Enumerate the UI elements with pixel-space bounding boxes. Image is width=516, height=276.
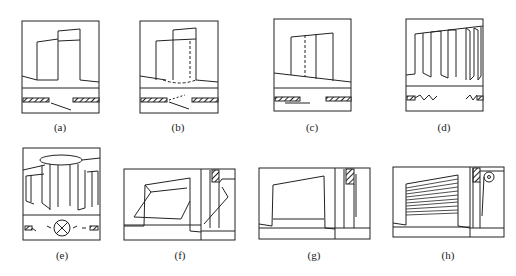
- panel-d-folding: [406, 19, 483, 111]
- caption-b: (b): [158, 121, 198, 133]
- caption-e: (e): [42, 249, 82, 261]
- panel-h-rolling-shutter: [393, 167, 504, 237]
- panel-a-single-swing: [22, 21, 99, 113]
- caption-c: (c): [292, 121, 332, 133]
- panel-f-up-and-over: [124, 169, 235, 240]
- caption-d: (d): [424, 121, 464, 133]
- panel-b-double-swing: [140, 21, 218, 113]
- panel-g-lifting: [259, 168, 370, 239]
- caption-a: (a): [40, 121, 80, 133]
- caption-h: (h): [428, 249, 468, 261]
- panel-c-sliding: [274, 19, 351, 111]
- caption-g: (g): [294, 249, 334, 261]
- caption-f: (f): [160, 249, 200, 261]
- door-types-diagram: [0, 0, 516, 276]
- panel-e-revolving: [23, 148, 100, 240]
